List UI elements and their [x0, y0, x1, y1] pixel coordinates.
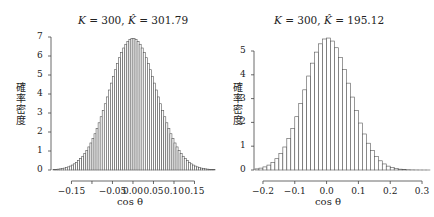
histogram-bar [287, 139, 291, 170]
histogram-bar [110, 83, 112, 170]
histogram-bar [145, 58, 147, 170]
y-tick-label: 7 [37, 31, 43, 41]
histogram-bar [162, 110, 164, 170]
histogram-bar [275, 159, 279, 170]
histogram-bar [291, 128, 295, 170]
x-tick-label: 0.0 [319, 186, 333, 196]
histogram-bar [131, 38, 133, 170]
histogram-bar [61, 169, 63, 170]
y-tick-label: 0 [37, 164, 43, 174]
histogram-bar [172, 139, 174, 170]
histogram-bar [398, 169, 402, 170]
histogram-bar [263, 167, 267, 170]
histogram-bar [164, 117, 166, 170]
histogram-bar [283, 147, 287, 170]
histogram-bar [129, 39, 131, 170]
histogram-bar [59, 169, 61, 170]
histogram-bar [151, 76, 153, 170]
histogram-bar [139, 44, 141, 170]
histogram-bar [143, 53, 145, 170]
histogram-bar [199, 168, 201, 170]
histogram-bar [176, 147, 178, 170]
histogram-bar [174, 143, 176, 170]
histogram-bar [119, 58, 121, 170]
histogram-bar [180, 154, 182, 170]
histogram-bar [186, 161, 188, 170]
x-tick-label: 0.05 [143, 186, 163, 196]
histogram-bar [115, 70, 117, 170]
histogram-bar [339, 58, 343, 170]
histogram-bar [205, 169, 207, 170]
histogram-bar [382, 164, 386, 170]
histogram-bar [358, 123, 362, 170]
histogram-bar [331, 41, 335, 170]
histogram-bar [188, 162, 190, 170]
histogram-bar [166, 123, 168, 170]
histogram-bar [153, 83, 155, 170]
histogram-bar [184, 159, 186, 170]
histogram-bar [94, 134, 96, 170]
histogram-bar [57, 169, 59, 170]
x-tick-label: −0.2 [252, 186, 274, 196]
histogram-bar [76, 162, 78, 170]
histogram-bar [209, 169, 211, 170]
histogram-bar [88, 147, 90, 170]
histogram-bar [390, 168, 394, 170]
histogram-bar [378, 161, 382, 170]
y-tick-label: 5 [240, 45, 246, 55]
histogram-bar [319, 44, 323, 170]
histogram-bar [123, 48, 125, 170]
histogram-bar [90, 143, 92, 170]
histogram-bar [104, 104, 106, 170]
histogram-bar [84, 154, 86, 170]
histogram-bar [203, 169, 205, 170]
histogram-bar [295, 117, 299, 170]
histogram-bar [267, 165, 271, 170]
x-tick-label: 0.00 [123, 186, 143, 196]
histogram-bar [96, 128, 98, 170]
histogram-bar [141, 48, 143, 170]
y-tick-label: 1 [37, 145, 43, 155]
histogram-bar [86, 150, 88, 170]
histogram-bar [67, 167, 69, 170]
y-tick-label: 2 [37, 126, 43, 136]
histogram-bar [168, 128, 170, 170]
histogram-bar [194, 166, 196, 170]
histogram-bar [147, 63, 149, 170]
histogram-bar [192, 165, 194, 170]
histogram-bar [178, 150, 180, 170]
histogram-bar [133, 38, 135, 170]
histogram-right [217, 0, 434, 217]
histogram-bar [149, 70, 151, 170]
histogram-bar [170, 134, 172, 170]
y-tick-label: 3 [240, 93, 246, 103]
x-tick-label: 0.3 [415, 186, 429, 196]
x-axis-label-right: cos θ [315, 196, 341, 207]
y-tick-label: 2 [240, 116, 246, 126]
x-tick-label: 0.1 [351, 186, 365, 196]
histogram-bar [112, 76, 114, 170]
histogram-bar [255, 169, 259, 170]
histogram-bar [299, 104, 303, 170]
histogram-bar [315, 52, 319, 170]
histogram-bar [354, 111, 358, 170]
y-tick-label: 3 [37, 107, 43, 117]
histogram-bar [335, 48, 339, 170]
histogram-bar [92, 139, 94, 170]
histogram-bar [259, 168, 263, 170]
histogram-bar [125, 44, 127, 170]
y-tick-label: 6 [37, 50, 43, 60]
histogram-bar [197, 167, 199, 170]
histogram-bar [207, 169, 209, 170]
histogram-bar [386, 166, 390, 170]
histogram-bar [271, 162, 275, 170]
histogram-bar [158, 97, 160, 170]
y-tick-label: 0 [240, 164, 246, 174]
histogram-bar [121, 53, 123, 170]
x-tick-label: −0.15 [58, 186, 86, 196]
y-tick-label: 4 [240, 69, 246, 79]
chart-right: K = 300, K̂ = 195.12 確率密度 −0.2−0.10.00.1… [217, 0, 434, 217]
histogram-bar [71, 165, 73, 170]
histogram-bar [127, 41, 129, 170]
histogram-bar [78, 161, 80, 170]
